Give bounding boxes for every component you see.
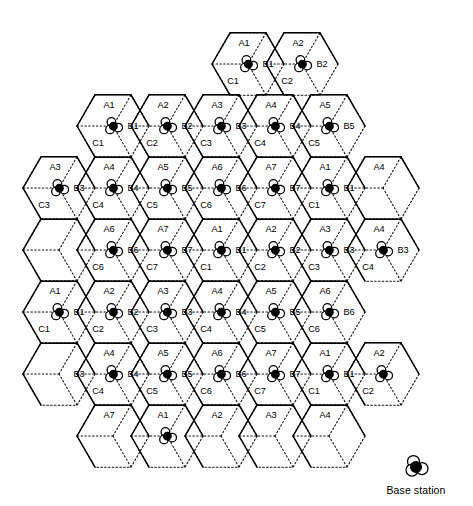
sector-label-b: B3 — [181, 307, 192, 317]
hex-cell-grid-svg: A1B1C1A2B2C2A1B1C1A2B2C2A3B3C3A4B4C4A5B5… — [0, 0, 473, 506]
sector-label-c: C4 — [92, 386, 104, 396]
sector-label-c: C2 — [146, 138, 158, 148]
sector-label-b: B3 — [343, 245, 354, 255]
sector-divider-se — [275, 436, 293, 467]
cluster-outer-edge — [401, 343, 419, 374]
base-station-icon — [241, 56, 258, 72]
sector-label-a: A2 — [157, 100, 168, 110]
sector-label-a: A7 — [265, 162, 276, 172]
sector-label-b: B3 — [397, 245, 408, 255]
sector-label-b: B3 — [235, 121, 246, 131]
base-station-icon — [322, 180, 339, 196]
sector-label-c: C2 — [254, 262, 266, 272]
base-station-icon — [322, 366, 339, 382]
sector-label-a: A7 — [103, 410, 114, 420]
cluster-outer-edge — [23, 374, 41, 405]
sector-label-c: C7 — [146, 262, 158, 272]
base-station-icon — [214, 242, 231, 258]
sector-label-a: A6 — [319, 286, 330, 296]
cluster-outer-edge — [212, 33, 230, 64]
sector-label-a: A4 — [265, 100, 276, 110]
base-station-icon — [214, 118, 231, 134]
sector-label-a: A5 — [319, 100, 330, 110]
base-station-icon — [322, 304, 339, 320]
sector-divider-se — [383, 188, 401, 219]
base-station-icon — [160, 118, 177, 134]
sector-divider-ne — [221, 405, 239, 436]
sector-label-c: C6 — [308, 324, 320, 334]
sector-divider-se — [329, 436, 347, 467]
sector-label-c: C6 — [200, 386, 212, 396]
base-station-icon — [376, 242, 393, 258]
sector-label-c: C4 — [92, 200, 104, 210]
sector-label-b: B6 — [235, 183, 246, 193]
base-station-icon — [322, 242, 339, 258]
sector-label-b: B1 — [235, 245, 246, 255]
sector-label-a: A2 — [265, 224, 276, 234]
sector-label-c: C4 — [362, 262, 374, 272]
sector-label-a: A1 — [103, 100, 114, 110]
sector-label-c: C1 — [92, 138, 104, 148]
sector-label-b: B6 — [127, 245, 138, 255]
base-station-icon — [214, 180, 231, 196]
sector-label-a: A4 — [373, 162, 384, 172]
sector-divider-ne — [113, 405, 131, 436]
sector-label-a: A6 — [211, 348, 222, 358]
base-station-icon — [295, 56, 312, 72]
sector-label-a: A3 — [211, 100, 222, 110]
sector-label-c: C3 — [146, 324, 158, 334]
base-station-icon — [106, 180, 123, 196]
sector-label-b: B6 — [235, 369, 246, 379]
sector-label-a: A1 — [211, 224, 222, 234]
sector-label-c: C3 — [38, 200, 50, 210]
sector-label-c: C5 — [146, 200, 158, 210]
sector-label-b: B4 — [289, 121, 300, 131]
sector-label-a: A1 — [157, 410, 168, 420]
base-station-icon — [106, 242, 123, 258]
sector-label-c: C3 — [200, 138, 212, 148]
sector-label-a: A3 — [157, 286, 168, 296]
sector-label-c: C4 — [200, 324, 212, 334]
sector-label-a: A1 — [319, 348, 330, 358]
sector-label-b: B4 — [127, 183, 138, 193]
sector-divider-ne — [329, 405, 347, 436]
sector-label-a: A3 — [49, 162, 60, 172]
sector-label-a: A5 — [265, 286, 276, 296]
base-station-icon — [214, 366, 231, 382]
sector-label-a: A4 — [103, 162, 114, 172]
sector-label-c: C5 — [308, 138, 320, 148]
sector-label-a: A7 — [265, 348, 276, 358]
base-station-icon — [106, 366, 123, 382]
sector-divider-se — [221, 436, 239, 467]
sector-label-b: B7 — [181, 245, 192, 255]
sector-label-c: C6 — [200, 200, 212, 210]
sector-label-a: A7 — [157, 224, 168, 234]
sector-label-b: B1 — [127, 121, 138, 131]
sector-label-c: C1 — [308, 386, 320, 396]
sector-label-b: B3 — [73, 183, 84, 193]
base-station-icon — [160, 180, 177, 196]
base-station-icon — [160, 428, 177, 444]
sector-label-c: C5 — [146, 386, 158, 396]
cellular-layout-diagram: A1B1C1A2B2C2A1B1C1A2B2C2A3B3C3A4B4C4A5B5… — [0, 0, 473, 506]
sector-label-c: C2 — [281, 76, 293, 86]
sector-label-b: B5 — [181, 183, 192, 193]
sector-divider-se — [113, 436, 131, 467]
sector-label-a: A4 — [319, 410, 330, 420]
base-station-icon — [160, 366, 177, 382]
sector-label-a: A1 — [319, 162, 330, 172]
sector-divider-ne — [59, 219, 77, 250]
base-station-icon — [268, 366, 285, 382]
sector-divider-se — [59, 250, 77, 281]
sector-label-a: A2 — [211, 410, 222, 420]
sector-label-a: A1 — [238, 38, 249, 48]
cluster-outer-edge — [23, 250, 41, 281]
sector-label-a: A6 — [103, 224, 114, 234]
sector-label-b: B3 — [73, 369, 84, 379]
sector-label-b: B2 — [181, 121, 192, 131]
sector-label-c: C1 — [227, 76, 239, 86]
sector-divider-ne — [383, 157, 401, 188]
sector-label-a: A3 — [265, 410, 276, 420]
base-station-icon — [52, 180, 69, 196]
sector-label-a: A6 — [211, 162, 222, 172]
